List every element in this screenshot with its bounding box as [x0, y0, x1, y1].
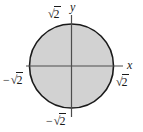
- y-tick-label-positive: √2: [47, 8, 61, 20]
- y-axis-label: y: [70, 1, 75, 13]
- radicand: 2: [16, 72, 23, 87]
- x-tick-label-positive: √2: [115, 76, 129, 88]
- x-tick-label-negative: −√2: [3, 74, 23, 86]
- y-tick-label-negative: −√2: [46, 115, 66, 127]
- radical-group: √2: [10, 74, 24, 86]
- minus-sign: −: [3, 73, 10, 87]
- radicand: 2: [54, 6, 61, 21]
- radicand: 2: [59, 113, 66, 128]
- radical-group: √2: [53, 115, 67, 127]
- minus-sign: −: [46, 114, 53, 128]
- radical-group: √2: [47, 8, 61, 20]
- radicand: 2: [122, 74, 129, 89]
- radical-group: √2: [115, 76, 129, 88]
- x-axis-label: x: [127, 59, 132, 71]
- math-figure-disk: y x √2 −√2 −√2 √2: [0, 0, 143, 132]
- figure-canvas: [0, 0, 143, 132]
